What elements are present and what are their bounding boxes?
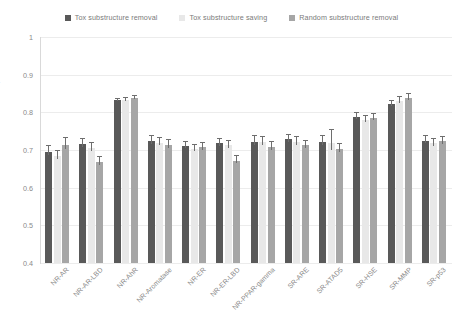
- bar-group: [388, 37, 412, 263]
- bar: [302, 145, 309, 263]
- error-bar: [91, 142, 92, 151]
- error-bar: [228, 140, 229, 148]
- bar: [405, 98, 412, 263]
- error-bar: [99, 156, 100, 166]
- bar: [122, 100, 129, 263]
- bar: [114, 100, 121, 263]
- error-bar-cap: [354, 112, 359, 113]
- error-bar: [322, 135, 323, 144]
- error-bar: [305, 140, 306, 148]
- error-bar: [356, 112, 357, 119]
- error-bar-cap: [363, 115, 368, 116]
- legend-item-2: Random substructure removal: [289, 13, 398, 22]
- error-bar-cap: [157, 137, 162, 138]
- error-bar-cap: [97, 156, 102, 157]
- error-bar-cap: [371, 113, 376, 114]
- y-tick-label: 1: [29, 33, 33, 42]
- legend-item-0: Tox substructure removal: [65, 13, 158, 22]
- bar-group: [45, 37, 69, 263]
- y-tick-label: 0.8: [23, 108, 33, 117]
- error-bar: [202, 142, 203, 149]
- bar-group: [285, 37, 309, 263]
- bar: [251, 142, 258, 263]
- bar-group: [422, 37, 446, 263]
- bar-group: [216, 37, 240, 263]
- bar: [285, 139, 292, 263]
- error-bar-cap: [423, 135, 428, 136]
- error-bar-cap: [234, 155, 239, 156]
- bar: [62, 145, 69, 263]
- error-bar-cap: [55, 150, 60, 151]
- bar-group: [182, 37, 206, 263]
- error-bar-cap: [269, 141, 274, 142]
- bar: [336, 149, 343, 263]
- bar-group: [319, 37, 343, 263]
- bar: [259, 142, 266, 263]
- error-bar: [331, 129, 332, 150]
- error-bar-cap: [46, 145, 51, 146]
- error-bar-cap: [217, 138, 222, 139]
- y-axis-ticks: 10.90.80.70.60.50.4: [0, 37, 36, 263]
- error-bar-cap: [260, 136, 265, 137]
- legend-swatch-0: [65, 15, 71, 21]
- error-bar-cap: [89, 142, 94, 143]
- error-bar-cap: [337, 143, 342, 144]
- error-bar-cap: [123, 97, 128, 98]
- bar: [182, 146, 189, 263]
- bar: [199, 147, 206, 263]
- bar: [396, 101, 403, 263]
- error-bar: [262, 136, 263, 145]
- error-bar-cap: [132, 95, 137, 96]
- error-bar: [271, 141, 272, 150]
- bar: [439, 141, 446, 263]
- legend-swatch-1: [179, 15, 185, 21]
- bar: [148, 141, 155, 263]
- legend-swatch-2: [289, 15, 295, 21]
- bar: [191, 149, 198, 263]
- error-bar-cap: [406, 93, 411, 94]
- error-bar-cap: [166, 139, 171, 140]
- gridline: [41, 263, 452, 264]
- bar: [96, 162, 103, 263]
- error-bar: [48, 145, 49, 155]
- bar: [362, 120, 369, 263]
- y-tick-label: 0.7: [23, 146, 33, 155]
- error-bar-cap: [320, 135, 325, 136]
- bar: [422, 141, 429, 263]
- bar: [353, 117, 360, 263]
- bar: [388, 104, 395, 263]
- error-bar: [408, 93, 409, 100]
- legend-item-1: Tox substructure saving: [179, 13, 267, 22]
- error-bar: [194, 144, 195, 151]
- error-bar-cap: [149, 135, 154, 136]
- error-bar-cap: [252, 135, 257, 136]
- roc-auc-bar-chart: Tox substructure removal Tox substructur…: [0, 0, 463, 327]
- error-bar-cap: [200, 142, 205, 143]
- y-tick-label: 0.4: [23, 259, 33, 268]
- bar-group: [79, 37, 103, 263]
- bar: [79, 144, 86, 263]
- error-bar: [254, 135, 255, 145]
- error-bar-cap: [389, 100, 394, 101]
- error-bar: [425, 135, 426, 144]
- error-bar-cap: [192, 144, 197, 145]
- error-bar: [365, 115, 366, 123]
- bar: [268, 147, 275, 263]
- error-bar: [57, 150, 58, 159]
- bar-group: [114, 37, 138, 263]
- error-bar-cap: [286, 134, 291, 135]
- error-bar: [288, 134, 289, 142]
- bar: [45, 152, 52, 263]
- y-tick-label: 0.9: [23, 70, 33, 79]
- bar: [131, 98, 138, 263]
- error-bar: [151, 135, 152, 144]
- bar: [225, 145, 232, 263]
- bar: [54, 156, 61, 263]
- error-bar-cap: [303, 140, 308, 141]
- error-bar-cap: [63, 137, 68, 138]
- error-bar: [399, 96, 400, 104]
- error-bar-cap: [440, 136, 445, 137]
- legend-label-2: Random substructure removal: [299, 13, 398, 22]
- error-bar-cap: [329, 129, 334, 130]
- bar-group: [353, 37, 377, 263]
